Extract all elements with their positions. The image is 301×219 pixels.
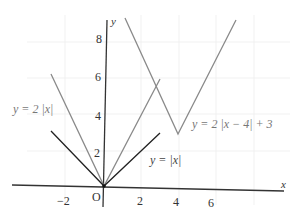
x-tick-label: 6 — [208, 196, 214, 210]
label-y-2abs-x: y = 2 |x| — [12, 102, 53, 116]
label-y-abs-x: y = |x| — [149, 153, 181, 167]
label-y-2abs-x-minus-4-plus-3: y = 2 |x − 4| + 3 — [191, 117, 273, 131]
x-tick-label: −2 — [57, 194, 70, 208]
x-tick-label: 2 — [137, 194, 143, 208]
y-axis-label: y — [110, 15, 116, 27]
absolute-value-chart: x y O −2 2 4 6 2 4 6 8 y = 2 |x| y = |x|… — [0, 0, 301, 219]
y-tick-label: 8 — [96, 32, 102, 46]
y-tick-label: 2 — [94, 146, 100, 160]
grid — [27, 15, 290, 205]
y-tick-label: 4 — [95, 109, 101, 123]
x-axis — [12, 185, 284, 191]
origin-point — [102, 184, 106, 188]
series-y-abs-x — [51, 131, 160, 186]
x-tick-label: 4 — [173, 195, 179, 209]
origin-label: O — [92, 190, 101, 204]
x-axis-label: x — [280, 178, 286, 190]
y-axis — [103, 20, 107, 207]
y-tick-label: 6 — [95, 70, 101, 84]
